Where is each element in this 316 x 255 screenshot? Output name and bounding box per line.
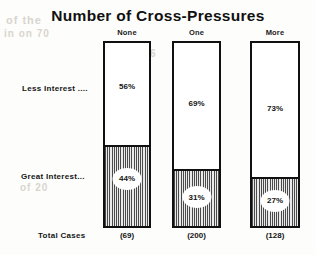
bar-segment-less-interest: 69% — [174, 43, 219, 169]
bar-segment-less-interest: 73% — [252, 43, 298, 177]
row-label-total-cases: Total Cases — [38, 231, 86, 240]
bar-value-great-interest: 27% — [261, 190, 290, 212]
bar-value-great-interest: 44% — [113, 168, 142, 190]
stacked-bar-more: 73% 27% — [250, 41, 300, 228]
scan-ghost-text: of 20 — [20, 182, 48, 193]
bar-value-great-interest: 31% — [182, 186, 211, 208]
row-label-great-interest: Great Interest... — [21, 172, 85, 181]
bar-value-less-interest: 73% — [252, 104, 298, 113]
bar-value-less-interest: 69% — [174, 99, 219, 108]
stacked-bar-one: 69% 31% — [172, 41, 221, 228]
total-cases-more: (128) — [250, 231, 300, 240]
scan-ghost-text: in on 70 — [4, 28, 50, 39]
bar-segment-great-interest: 44% — [105, 145, 149, 226]
bar-value-less-interest: 56% — [105, 82, 149, 91]
column-header-more: More — [250, 28, 300, 37]
row-label-less-interest: Less Interest .... — [22, 84, 88, 93]
bar-segment-great-interest: 31% — [174, 169, 219, 226]
chart-figure: of the in on 70 of 20 6 Number of Cross-… — [0, 0, 316, 255]
column-header-none: None — [103, 28, 151, 37]
total-cases-none: (69) — [103, 231, 151, 240]
stacked-bar-none: 56% 44% — [103, 41, 151, 228]
total-cases-one: (200) — [172, 231, 221, 240]
bar-segment-less-interest: 56% — [105, 43, 149, 145]
chart-title: Number of Cross-Pressures — [0, 7, 316, 25]
column-header-one: One — [172, 28, 221, 37]
bar-segment-great-interest: 27% — [252, 177, 298, 226]
